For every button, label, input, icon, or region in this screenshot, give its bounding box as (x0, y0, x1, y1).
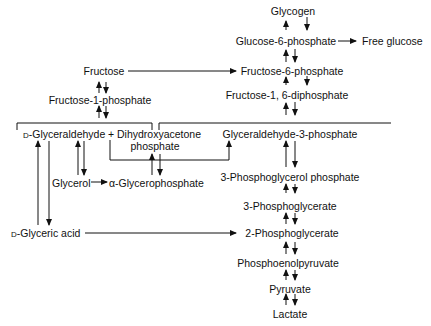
node-glyceraldehyde-3-phosphate: Glyceraldehyde-3-phosphate (223, 128, 358, 140)
node-dihydroxyacetone-phosphate: phosphate (130, 140, 179, 152)
metabolic-pathway-diagram: Glycogen Glucose-6-phosphate Free glucos… (0, 0, 431, 326)
node-glucose-6-phosphate: Glucose-6-phosphate (236, 35, 336, 47)
node-3-phosphoglycerol-phosphate: 3-Phosphoglycerol phosphate (221, 171, 360, 183)
plus-sign: + (108, 128, 114, 140)
node-2-phosphoglycerate: 2-Phosphoglycerate (245, 227, 338, 239)
node-fructose: Fructose (84, 65, 125, 77)
node-glycogen: Glycogen (271, 5, 315, 17)
node-glycerol: Glycerol (52, 177, 91, 189)
node-fructose-1-6-diphosphate: Fructose-1, 6-diphosphate (226, 89, 349, 101)
node-alpha-glycerophosphate: α-Glycerophosphate (109, 177, 204, 189)
node-lactate: Lactate (273, 308, 307, 320)
node-free-glucose: Free glucose (362, 35, 423, 47)
node-pyruvate: Pyruvate (269, 283, 310, 295)
node-3-phosphoglycerate: 3-Phosphoglycerate (243, 200, 336, 212)
pathway-arrows (0, 0, 431, 326)
node-phosphoenolpyruvate: Phosphoenolpyruvate (237, 257, 339, 269)
node-fructose-1-phosphate: Fructose-1-phosphate (49, 94, 152, 106)
node-fructose-6-phosphate: Fructose-6-phosphate (241, 65, 344, 77)
node-dihydroxyacetone: Dihydroxyacetone (117, 128, 201, 140)
node-d-glyceric-acid: D-Glyceric acid (11, 227, 80, 241)
node-d-glyceraldehyde: D-Glyceraldehyde (23, 128, 105, 142)
